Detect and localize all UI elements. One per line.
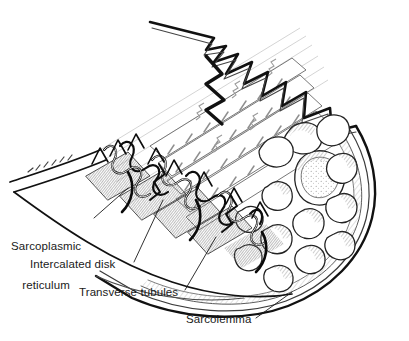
- label-intercalated-disk: Intercalated disk: [30, 258, 115, 271]
- label-sarcoplasmic-reticulum-line1: Sarcoplasmic: [11, 240, 81, 253]
- fiber-tail: [10, 150, 106, 192]
- label-transverse-tubules: Transverse tubules: [79, 286, 178, 299]
- cardiac-muscle-fiber-figure: Sarcoplasmic reticulum Intercalated disk…: [0, 0, 409, 341]
- label-sarcoplasmic-reticulum-line2: reticulum: [11, 279, 81, 292]
- label-sarcolemma: Sarcolemma: [186, 313, 252, 326]
